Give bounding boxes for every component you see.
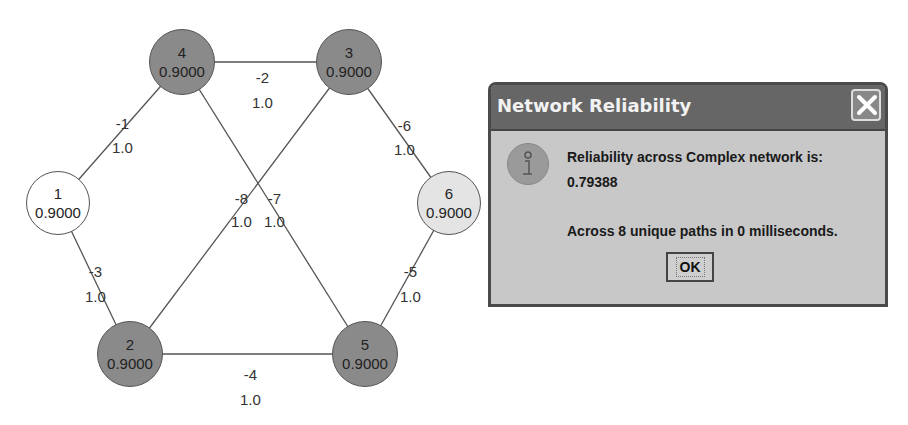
reliability-value: 0.79388	[567, 174, 618, 190]
edge-label-3-2: -8 1.0	[231, 190, 252, 230]
reliability-message: Reliability across Complex network is:	[567, 149, 823, 165]
node-reliability: 0.9000	[426, 203, 472, 222]
edge-weight: 1.0	[400, 288, 421, 305]
edge-id: -5	[400, 263, 421, 280]
edge-weight: 1.0	[394, 141, 415, 158]
close-button[interactable]	[851, 89, 881, 121]
node-id: 3	[345, 43, 353, 62]
edge-label-3-6: -6 1.0	[394, 117, 415, 158]
edge-label-4-5: -7 1.0	[264, 190, 285, 230]
node-id: 1	[54, 184, 62, 203]
graph-node-2[interactable]: 2 0.9000	[97, 321, 163, 387]
edge-id: -6	[394, 117, 415, 134]
edge-id: -8	[231, 190, 252, 207]
node-id: 6	[445, 184, 453, 203]
edge-label-4-3: -2 1.0	[252, 69, 273, 111]
node-id: 4	[178, 43, 186, 62]
node-reliability: 0.9000	[159, 62, 205, 81]
edge-label-6-5: -5 1.0	[400, 263, 421, 305]
graph-node-4[interactable]: 4 0.9000	[149, 29, 215, 95]
edge-weight: 1.0	[231, 213, 252, 230]
node-id: 5	[361, 335, 369, 354]
node-reliability: 0.9000	[326, 62, 372, 81]
graph-node-6[interactable]: 6 0.9000	[417, 171, 481, 235]
graph-node-1[interactable]: 1 0.9000	[26, 171, 90, 235]
node-reliability: 0.9000	[107, 354, 153, 373]
edge-label-2-5: -4 1.0	[240, 366, 261, 408]
edge-weight: 1.0	[264, 213, 285, 230]
ok-label: OK	[676, 257, 705, 277]
network-reliability-dialog: Network Reliability Reliability across C…	[488, 82, 888, 307]
edge-label-4-1: -1 1.0	[112, 115, 133, 156]
edge-weight: 1.0	[85, 288, 106, 305]
edge-weight: 1.0	[112, 139, 133, 156]
node-reliability: 0.9000	[35, 203, 81, 222]
dialog-titlebar[interactable]: Network Reliability	[491, 85, 885, 131]
edge-id: -3	[85, 263, 106, 280]
edge-label-1-2: -3 1.0	[85, 263, 106, 305]
info-icon	[507, 143, 549, 185]
edge-weight: 1.0	[252, 94, 273, 111]
edge-id: -4	[240, 366, 261, 383]
edge-id: -7	[264, 190, 285, 207]
close-icon	[856, 94, 878, 116]
edge-id: -2	[252, 69, 273, 86]
edge-weight: 1.0	[240, 391, 261, 408]
node-reliability: 0.9000	[342, 354, 388, 373]
graph-node-3[interactable]: 3 0.9000	[316, 29, 382, 95]
dialog-title: Network Reliability	[497, 95, 691, 116]
graph-node-5[interactable]: 5 0.9000	[332, 321, 398, 387]
paths-message: Across 8 unique paths in 0 milliseconds.	[567, 223, 838, 239]
ok-button[interactable]: OK	[666, 252, 714, 282]
edge-id: -1	[112, 115, 133, 132]
node-id: 2	[126, 335, 134, 354]
